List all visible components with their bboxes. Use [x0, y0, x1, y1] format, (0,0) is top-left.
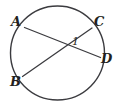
point-label-b: B	[10, 75, 21, 88]
geometry-figure: A C B D 1	[0, 0, 115, 106]
point-label-c: C	[94, 15, 104, 28]
point-label-a: A	[11, 15, 21, 28]
chord-ad	[25, 28, 101, 58]
point-label-d: D	[101, 52, 112, 65]
angle-label-1: 1	[72, 36, 79, 47]
chord-bc	[23, 28, 93, 77]
